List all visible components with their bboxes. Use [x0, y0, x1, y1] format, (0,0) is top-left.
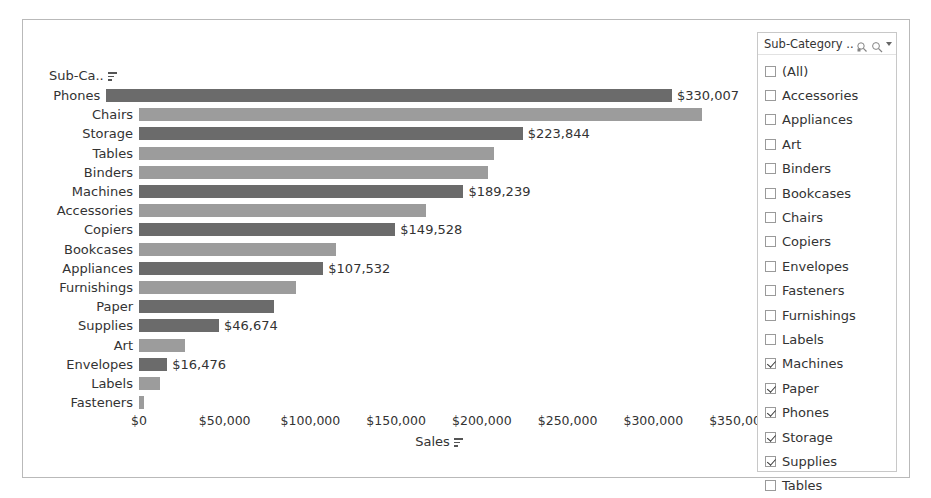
- bar-row[interactable]: Binders: [49, 163, 739, 182]
- bar-track: $16,476: [139, 355, 739, 374]
- crosshair-icon[interactable]: [856, 38, 868, 50]
- filter-item[interactable]: Phones: [765, 400, 896, 424]
- bar-category-label[interactable]: Tables: [49, 147, 139, 160]
- checkbox-unchecked-icon[interactable]: [765, 310, 776, 321]
- filter-item[interactable]: Accessories: [765, 83, 896, 107]
- checkbox-unchecked-icon[interactable]: [765, 480, 776, 491]
- row-field-header[interactable]: Sub-Ca..: [49, 68, 117, 83]
- checkbox-unchecked-icon[interactable]: [765, 261, 776, 272]
- bar[interactable]: [139, 147, 494, 160]
- sort-icon[interactable]: [108, 72, 117, 81]
- bar-row[interactable]: Storage$223,844: [49, 124, 739, 143]
- filter-item[interactable]: Supplies: [765, 449, 896, 473]
- bar-track: [139, 393, 739, 412]
- bar-row[interactable]: Furnishings: [49, 278, 739, 297]
- checkbox-unchecked-icon[interactable]: [765, 163, 776, 174]
- bar-category-label[interactable]: Machines: [49, 185, 139, 198]
- checkbox-checked-icon[interactable]: [765, 383, 776, 394]
- checkbox-unchecked-icon[interactable]: [765, 188, 776, 199]
- bar-row[interactable]: Tables: [49, 144, 739, 163]
- bar-category-label[interactable]: Appliances: [49, 262, 139, 275]
- bar-value-label: $330,007: [677, 89, 739, 102]
- bar-category-label[interactable]: Copiers: [49, 223, 139, 236]
- bar[interactable]: [106, 89, 672, 102]
- search-icon[interactable]: [871, 38, 883, 50]
- bar-row[interactable]: Phones$330,007: [49, 86, 739, 105]
- bar[interactable]: [139, 262, 323, 275]
- filter-item[interactable]: Tables: [765, 474, 896, 498]
- bar-category-label[interactable]: Binders: [49, 166, 139, 179]
- bar[interactable]: [139, 281, 296, 294]
- filter-item[interactable]: Copiers: [765, 230, 896, 254]
- bar[interactable]: [139, 166, 488, 179]
- bar-row[interactable]: Chairs: [49, 105, 739, 124]
- bar-category-label[interactable]: Art: [49, 339, 139, 352]
- bar-row[interactable]: Copiers$149,528: [49, 220, 739, 239]
- x-axis-title[interactable]: Sales: [139, 434, 739, 449]
- bar-category-label[interactable]: Accessories: [49, 204, 139, 217]
- bar-category-label[interactable]: Storage: [49, 127, 139, 140]
- filter-item[interactable]: Envelopes: [765, 254, 896, 278]
- filter-item[interactable]: Art: [765, 132, 896, 156]
- filter-item[interactable]: Paper: [765, 376, 896, 400]
- bar-row[interactable]: Art: [49, 335, 739, 354]
- bar[interactable]: [139, 243, 336, 256]
- filter-item[interactable]: Binders: [765, 157, 896, 181]
- checkbox-checked-icon[interactable]: [765, 456, 776, 467]
- bar-row[interactable]: Bookcases: [49, 240, 739, 259]
- checkbox-unchecked-icon[interactable]: [765, 90, 776, 101]
- filter-item[interactable]: Bookcases: [765, 181, 896, 205]
- bar-row[interactable]: Fasteners: [49, 393, 739, 412]
- x-tick-label: $200,000: [452, 413, 512, 428]
- filter-item[interactable]: Storage: [765, 425, 896, 449]
- filter-item[interactable]: (All): [765, 59, 896, 83]
- sub-category-filter-panel: Sub-Category ... (All)AccessoriesApplian…: [757, 32, 897, 472]
- filter-item[interactable]: Furnishings: [765, 303, 896, 327]
- bar-row[interactable]: Supplies$46,674: [49, 316, 739, 335]
- filter-item[interactable]: Chairs: [765, 205, 896, 229]
- bar-row[interactable]: Envelopes$16,476: [49, 355, 739, 374]
- bar[interactable]: [139, 396, 144, 409]
- bar-category-label[interactable]: Furnishings: [49, 281, 139, 294]
- bar-row[interactable]: Accessories: [49, 201, 739, 220]
- checkbox-unchecked-icon[interactable]: [765, 212, 776, 223]
- bar-category-label[interactable]: Phones: [49, 89, 106, 102]
- bar[interactable]: [139, 127, 523, 140]
- bar[interactable]: [139, 300, 274, 313]
- bar-category-label[interactable]: Fasteners: [49, 396, 139, 409]
- bar[interactable]: [139, 185, 463, 198]
- bar-category-label[interactable]: Paper: [49, 300, 139, 313]
- bar[interactable]: [139, 319, 219, 332]
- bar[interactable]: [139, 223, 395, 236]
- checkbox-unchecked-icon[interactable]: [765, 334, 776, 345]
- bar-row[interactable]: Labels: [49, 374, 739, 393]
- bar-category-label[interactable]: Supplies: [49, 319, 139, 332]
- filter-item[interactable]: Appliances: [765, 108, 896, 132]
- sort-icon[interactable]: [454, 438, 463, 447]
- checkbox-checked-icon[interactable]: [765, 407, 776, 418]
- chevron-down-icon[interactable]: [886, 42, 892, 46]
- bar-row[interactable]: Appliances$107,532: [49, 259, 739, 278]
- bar[interactable]: [139, 204, 426, 217]
- filter-item[interactable]: Labels: [765, 327, 896, 351]
- bar[interactable]: [139, 108, 702, 121]
- bar-row[interactable]: Paper: [49, 297, 739, 316]
- filter-item-list: (All)AccessoriesAppliancesArtBindersBook…: [758, 55, 896, 498]
- bar[interactable]: [139, 358, 167, 371]
- checkbox-unchecked-icon[interactable]: [765, 236, 776, 247]
- checkbox-unchecked-icon[interactable]: [765, 66, 776, 77]
- bar-category-label[interactable]: Chairs: [49, 108, 139, 121]
- bar[interactable]: [139, 377, 160, 390]
- bar-category-label[interactable]: Envelopes: [49, 358, 139, 371]
- checkbox-unchecked-icon[interactable]: [765, 139, 776, 150]
- checkbox-checked-icon[interactable]: [765, 432, 776, 443]
- checkbox-unchecked-icon[interactable]: [765, 114, 776, 125]
- bar[interactable]: [139, 339, 185, 352]
- bar-row[interactable]: Machines$189,239: [49, 182, 739, 201]
- filter-item[interactable]: Machines: [765, 352, 896, 376]
- checkbox-unchecked-icon[interactable]: [765, 285, 776, 296]
- bar-category-label[interactable]: Bookcases: [49, 243, 139, 256]
- checkbox-checked-icon[interactable]: [765, 358, 776, 369]
- filter-item[interactable]: Fasteners: [765, 279, 896, 303]
- bar-category-label[interactable]: Labels: [49, 377, 139, 390]
